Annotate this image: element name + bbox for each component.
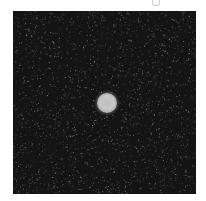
corner-mark <box>152 0 160 6</box>
bright-disc <box>97 93 117 113</box>
image-frame <box>13 11 196 194</box>
